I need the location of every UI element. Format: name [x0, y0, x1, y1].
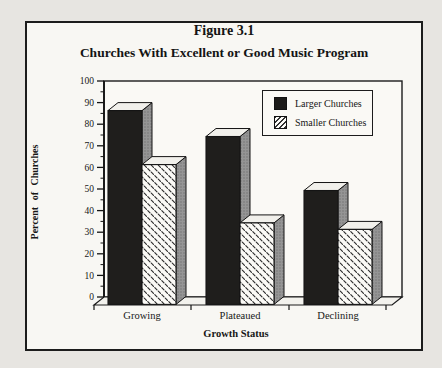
legend-item-smaller-churches: Smaller Churches: [274, 116, 372, 129]
chart-title: Churches With Excellent or Good Music Pr…: [25, 45, 423, 61]
legend-label-smaller: Smaller Churches: [295, 117, 366, 128]
legend-item-larger-churches: Larger Churches: [274, 97, 372, 110]
figure-frame: [25, 21, 423, 351]
smaller-churches-swatch-icon: [274, 116, 287, 129]
scanned-chart-page: 0102030405060708090100GrowingPlateauedDe…: [0, 0, 442, 368]
figure-number: Figure 3.1: [25, 23, 423, 39]
chart-legend: Larger Churches Smaller Churches: [262, 90, 373, 136]
legend-label-larger: Larger Churches: [295, 98, 362, 109]
larger-churches-swatch-icon: [274, 97, 287, 110]
